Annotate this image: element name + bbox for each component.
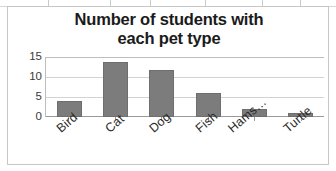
- chart-object-frame[interactable]: Number of students with each pet type 15…: [7, 6, 329, 165]
- category-cell-dog: Dog: [138, 121, 185, 165]
- bar-cat[interactable]: [103, 62, 128, 117]
- y-axis-tick-labels: 15 10 5 0: [14, 57, 42, 117]
- chart-screenshot: Number of students with each pet type 15…: [0, 0, 336, 171]
- plot-area: [45, 57, 324, 117]
- y-tick-label: 15: [14, 51, 42, 62]
- category-cell-turtle: Turtle: [278, 121, 325, 165]
- y-tick-label: 5: [14, 91, 42, 102]
- category-cell-bird: Bird: [45, 121, 92, 165]
- chart-title: Number of students with each pet type: [8, 10, 330, 48]
- plot-block: 15 10 5 0: [8, 57, 330, 165]
- category-cell-cat: Cat: [92, 121, 139, 165]
- bar-slot-fish[interactable]: [185, 58, 231, 117]
- chart-title-line-2: each pet type: [8, 29, 330, 48]
- chart-title-line-1: Number of students with: [8, 10, 330, 29]
- y-tick-label: 0: [14, 111, 42, 122]
- category-cell-hamster: Hams…: [231, 121, 278, 165]
- category-cell-fish: Fish: [185, 121, 232, 165]
- y-tick-label: 10: [14, 71, 42, 82]
- bar-slot-bird[interactable]: [46, 58, 92, 117]
- x-axis-category-labels: Bird Cat Dog Fish Hams… Turtle: [45, 121, 324, 165]
- bar-slot-dog[interactable]: [139, 58, 185, 117]
- bar-slot-cat[interactable]: [92, 58, 138, 117]
- bar-series: [46, 58, 324, 117]
